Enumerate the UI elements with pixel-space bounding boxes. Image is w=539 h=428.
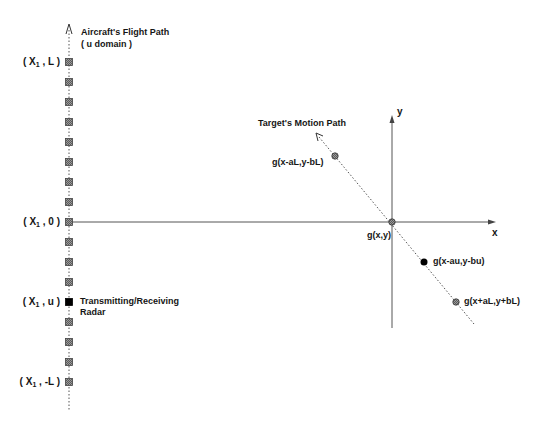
- point-label-x-au: g(x-au,y-bu): [433, 256, 485, 267]
- radar-label: Transmitting/Receiving: [80, 296, 179, 307]
- aircraft-path-subtitle: ( u domain ): [81, 39, 132, 50]
- flight-position-marker: [66, 259, 73, 266]
- flight-position-marker: [66, 139, 73, 146]
- flight-path-arrow-icon: [66, 24, 72, 34]
- target-path-title: Target's Motion Path: [258, 118, 346, 129]
- flight-position-marker: [66, 99, 73, 106]
- target-point-marker: [332, 153, 338, 159]
- flight-position-marker: [66, 119, 73, 126]
- radar-label-line2: Radar: [80, 307, 106, 318]
- flight-position-marker: [66, 379, 73, 386]
- coord-label-u: ( X1 , u ): [4, 296, 60, 311]
- y-axis-label: y: [397, 106, 403, 117]
- flight-position-marker: [66, 59, 73, 66]
- point-label-x-aL: g(x-aL,y-bL): [272, 157, 324, 168]
- target-motion-path-line: [319, 137, 474, 324]
- x-axis-label: x: [492, 227, 498, 238]
- flight-position-marker: [66, 279, 73, 286]
- point-label-origin: g(x,y): [367, 230, 391, 241]
- target-point-marker: [389, 219, 395, 225]
- target-point-marker: [421, 259, 428, 266]
- y-axis-arrow-icon: [390, 115, 395, 123]
- coord-label-0: ( X1 , 0 ): [4, 216, 60, 231]
- coord-label-L: ( X1 , L ): [4, 56, 60, 71]
- coord-label-neg-L: ( X1 , -L ): [4, 376, 60, 391]
- flight-position-marker: [66, 219, 73, 226]
- diagram-graphics: [0, 0, 539, 428]
- flight-position-marker: [66, 199, 73, 206]
- flight-position-marker: [66, 239, 73, 246]
- point-label-x-plus-aL: g(x+aL,y+bL): [464, 296, 520, 307]
- radar-position-marker: [66, 299, 73, 306]
- flight-position-marker: [66, 339, 73, 346]
- flight-position-marker: [66, 79, 73, 86]
- radar-geometry-diagram: Aircraft's Flight Path ( u domain ) ( X1…: [0, 0, 539, 428]
- aircraft-path-title: Aircraft's Flight Path: [81, 27, 169, 38]
- flight-position-marker: [66, 179, 73, 186]
- flight-position-marker: [66, 319, 73, 326]
- target-point-marker: [453, 299, 459, 305]
- x-axis-arrow-icon: [488, 220, 496, 225]
- flight-position-marker: [66, 359, 73, 366]
- flight-position-marker: [66, 159, 73, 166]
